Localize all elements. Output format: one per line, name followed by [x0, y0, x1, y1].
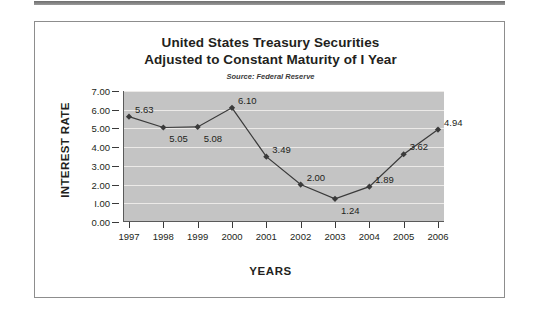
gridline — [124, 185, 444, 186]
chart-title-line-1: United States Treasury Securities — [162, 35, 380, 50]
x-axis-tick-label: 2000 — [221, 231, 242, 242]
chart-title-line-2: Adjusted to Constant Maturity of I Year — [35, 51, 506, 68]
y-axis-tick — [112, 166, 119, 167]
data-point-label: 1.24 — [341, 204, 360, 215]
y-axis-tick-label: 6.00 — [76, 104, 110, 115]
x-axis-tick-label: 2001 — [256, 231, 277, 242]
data-point-label: 6.10 — [238, 94, 257, 105]
data-point-label: 3.49 — [272, 143, 291, 154]
x-axis-tick-label: 2002 — [290, 231, 311, 242]
x-axis-tick — [129, 222, 130, 228]
x-axis-tick — [266, 222, 267, 228]
data-point-label: 5.63 — [135, 103, 154, 114]
x-axis-tick — [198, 222, 199, 228]
x-axis-tick-label: 1999 — [187, 231, 208, 242]
y-axis-tick — [112, 203, 119, 204]
gridline — [124, 203, 444, 204]
x-axis-tick-label: 1997 — [118, 231, 139, 242]
y-axis-tick — [112, 128, 119, 129]
gridline — [124, 166, 444, 167]
y-axis-tick-label: I.00 — [76, 198, 110, 209]
y-axis-tick-label: 5.00 — [76, 123, 110, 134]
x-axis-tick-label: 2004 — [359, 231, 380, 242]
y-axis-title: INTEREST RATE — [59, 95, 71, 205]
data-point-label: 4.94 — [444, 116, 463, 127]
y-axis-tick — [112, 185, 119, 186]
x-axis-tick — [335, 222, 336, 228]
x-axis-tick — [232, 222, 233, 228]
chart-figure: United States Treasury Securities Adjust… — [34, 21, 505, 298]
plot-area — [123, 91, 444, 222]
data-point-label: 3.62 — [410, 141, 429, 152]
y-axis-tick-label: 4.00 — [76, 142, 110, 153]
y-axis-tick-label: 2.00 — [76, 179, 110, 190]
chart-title: United States Treasury Securities Adjust… — [35, 34, 506, 68]
gridline — [124, 91, 444, 92]
x-axis-tick — [163, 222, 164, 228]
data-point-label: 5.05 — [169, 133, 188, 144]
y-axis-tick-label: 7.00 — [76, 86, 110, 97]
y-axis-tick — [112, 222, 119, 223]
y-axis-tick — [112, 110, 119, 111]
y-axis-tick — [112, 91, 119, 92]
gridline — [124, 110, 444, 111]
x-axis-title: YEARS — [35, 265, 506, 277]
y-axis-tick-label: 3.00 — [76, 160, 110, 171]
data-point-label: 1.89 — [375, 173, 394, 184]
y-axis-tick — [112, 147, 119, 148]
gridline — [124, 128, 444, 129]
x-axis-tick-label: 2005 — [393, 231, 414, 242]
y-axis-tick-label: 0.00 — [76, 217, 110, 228]
x-axis-tick-label: 1998 — [153, 231, 174, 242]
x-axis-tick-label: 2003 — [324, 231, 345, 242]
x-axis-tick-label: 2006 — [427, 231, 448, 242]
x-axis-tick — [301, 222, 302, 228]
top-divider-rule — [34, 1, 505, 5]
data-point-label: 5.08 — [204, 132, 223, 143]
plot-region: 7.006.005.004.003.002.00I.000.0019971998… — [123, 91, 444, 222]
x-axis-tick — [369, 222, 370, 228]
chart-source-note: Source: Federal Reserve — [35, 72, 506, 81]
x-axis-tick — [404, 222, 405, 228]
x-axis-tick — [438, 222, 439, 228]
data-point-label: 2.00 — [307, 171, 326, 182]
